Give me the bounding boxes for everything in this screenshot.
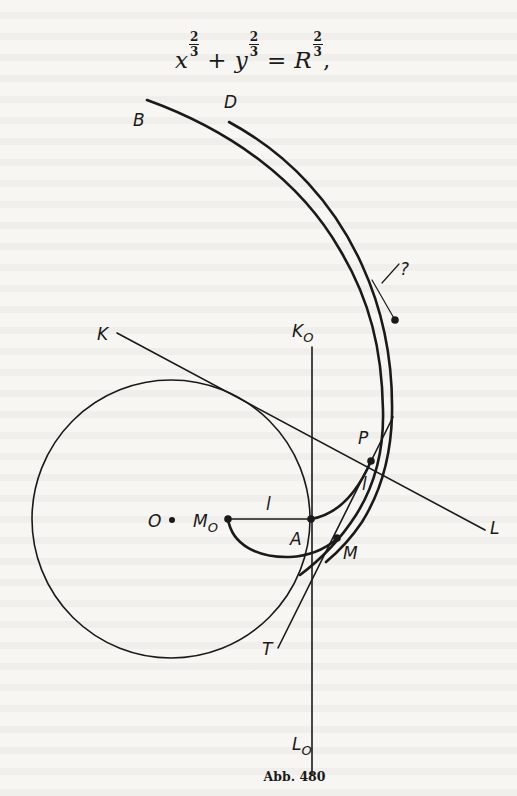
label-M0: MO — [193, 511, 218, 535]
figure-caption: Abb. 480 — [0, 769, 517, 784]
label-P: P — [358, 428, 369, 448]
point-O-dot — [169, 517, 175, 523]
label-l-arc: l — [362, 474, 367, 494]
point-A-dot — [307, 515, 315, 523]
label-l-segment: l — [266, 494, 271, 514]
label-L0: LO — [292, 734, 312, 758]
label-T: T — [262, 639, 274, 659]
point-M-dot — [333, 534, 341, 542]
line-K-L — [117, 333, 485, 530]
question-leader-line — [382, 264, 399, 283]
label-A: A — [289, 529, 302, 549]
label-K0: KO — [292, 321, 313, 345]
geometric-diagram: B D ? K KO P L l l O MO A M T LO — [0, 0, 517, 796]
label-M: M — [343, 543, 358, 563]
label-K: K — [97, 324, 110, 344]
arc-M0-M — [228, 519, 337, 557]
label-O: O — [148, 511, 161, 531]
point-on-curve-dot — [391, 316, 399, 324]
label-question: ? — [400, 259, 409, 279]
figure-caption-text: Abb. 480 — [264, 769, 326, 784]
point-M0-dot — [224, 515, 232, 523]
label-D: D — [224, 92, 237, 112]
point-P-dot — [367, 457, 375, 465]
label-L: L — [490, 518, 499, 538]
label-B: B — [133, 110, 145, 130]
